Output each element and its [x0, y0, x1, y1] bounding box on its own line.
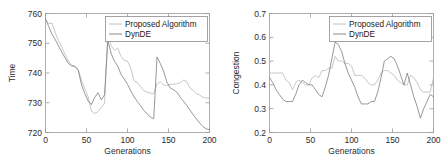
legend-label-proposed-algorithm: Proposed Algorithm — [349, 20, 421, 29]
legend-label-proposed-algorithm: Proposed Algorithm — [125, 20, 197, 29]
x-axis-title: Generations — [104, 146, 150, 156]
y-tick-label: 0.7 — [254, 9, 266, 19]
y-axis-title: Time — [7, 63, 17, 82]
x-tick-label: 50 — [82, 135, 92, 145]
figure-container: 720 730 740 750 760 0 50 100 150 200 Gen… — [0, 0, 448, 166]
y-tick-label: 0.3 — [254, 104, 266, 114]
series-group — [270, 42, 434, 118]
x-tick-label: 0 — [43, 135, 48, 145]
y-axis-title: Congestion — [231, 51, 241, 94]
x-axis-title: Generations — [328, 146, 374, 156]
x-tick-label: 50 — [306, 135, 316, 145]
y-tick-label: 760 — [28, 9, 42, 19]
chart-svg-time: 720 730 740 750 760 0 50 100 150 200 Gen… — [0, 0, 224, 166]
x-tick-label: 150 — [385, 135, 399, 145]
chart-panel-time: 720 730 740 750 760 0 50 100 150 200 Gen… — [0, 0, 224, 166]
y-tick-label: 0.2 — [254, 128, 266, 138]
y-tick-label: 730 — [28, 98, 42, 108]
y-tick-label: 0.5 — [254, 56, 266, 66]
chart-svg-congestion: 0.2 0.3 0.4 0.5 0.6 0.7 0 50 100 150 200… — [224, 0, 448, 166]
legend[interactable]: Proposed Algorithm DynDE — [106, 17, 208, 42]
series-line-0 — [270, 56, 434, 92]
legend-label-dynde: DynDE — [349, 30, 375, 39]
y-tick-label: 750 — [28, 38, 42, 48]
legend-label-dynde: DynDE — [125, 30, 151, 39]
y-tick-label: 0.6 — [254, 32, 266, 42]
x-tick-label: 200 — [202, 135, 216, 145]
legend[interactable]: Proposed Algorithm DynDE — [330, 17, 432, 42]
x-tick-label: 150 — [161, 135, 175, 145]
y-tick-label: 0.4 — [254, 80, 266, 90]
x-tick-label: 200 — [426, 135, 440, 145]
y-tick-label: 720 — [28, 128, 42, 138]
y-tick-label: 740 — [28, 68, 42, 78]
x-tick-label: 100 — [344, 135, 358, 145]
series-line-1 — [270, 42, 434, 118]
x-tick-label: 100 — [120, 135, 134, 145]
chart-panel-congestion: 0.2 0.3 0.4 0.5 0.6 0.7 0 50 100 150 200… — [224, 0, 448, 166]
x-tick-label: 0 — [267, 135, 272, 145]
